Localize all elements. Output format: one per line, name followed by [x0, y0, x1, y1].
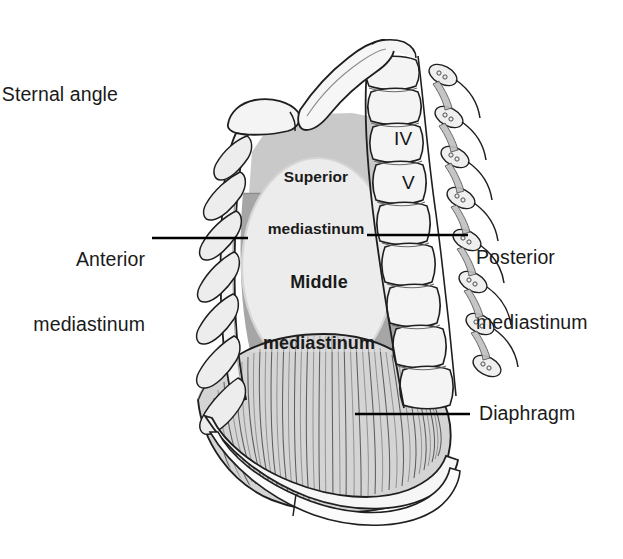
- vertebral-body-4: [373, 161, 426, 204]
- rib-head-1: [426, 60, 461, 90]
- label-middle-mediastinum: Middle mediastinum: [246, 232, 392, 393]
- vertebral-body-9: [400, 366, 453, 409]
- label-anterior-mediastinum: Anterior mediastinum: [33, 205, 145, 380]
- manubrium: [228, 99, 300, 135]
- label-middle-mediastinum-line2: mediastinum: [246, 333, 392, 353]
- vertebral-body-7: [387, 284, 440, 327]
- label-posterior-mediastinum: Posterior mediastinum: [476, 203, 588, 378]
- label-posterior-mediastinum-line2: mediastinum: [476, 312, 588, 334]
- label-sternal-angle: Sternal angle: [2, 84, 118, 106]
- rib-shaft-1: [456, 80, 480, 118]
- label-anterior-mediastinum-line1: Anterior: [33, 249, 145, 271]
- label-diaphragm: Diaphragm: [479, 403, 575, 425]
- vertebral-body-8: [393, 325, 446, 368]
- vertebral-body-2: [368, 88, 421, 125]
- label-vertebra-V: V: [402, 172, 415, 193]
- figure-caption: [0, 545, 623, 559]
- label-middle-mediastinum-line1: Middle: [246, 272, 392, 292]
- mediastinum-figure: Sternal angle Anterior mediastinum Poste…: [0, 0, 623, 559]
- label-superior-mediastinum-line1: Superior: [252, 168, 380, 185]
- label-anterior-mediastinum-line2: mediastinum: [33, 314, 145, 336]
- label-vertebra-IV: IV: [394, 128, 412, 149]
- label-posterior-mediastinum-line1: Posterior: [476, 247, 588, 269]
